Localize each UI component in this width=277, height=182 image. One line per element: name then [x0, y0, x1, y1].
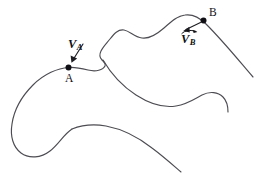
vector-b-subscript: B — [190, 37, 196, 47]
point-b-label: B — [209, 7, 217, 19]
vector-a-letter: V — [68, 37, 76, 51]
figure-canvas — [0, 0, 277, 182]
vector-a-label: VA — [68, 38, 82, 52]
lower-boundary-curve — [72, 125, 181, 172]
kinematics-figure: A B VA VB — [0, 0, 277, 182]
descending-branch-curve — [103, 60, 228, 112]
vector-a-arrowhead — [71, 56, 78, 63]
point-a-marker — [66, 65, 72, 71]
point-a-label: A — [65, 73, 73, 85]
vector-a-subscript: A — [77, 42, 83, 52]
vector-b-letter: V — [181, 32, 189, 46]
vector-b-label: VB — [181, 33, 195, 47]
point-b-marker — [201, 18, 207, 24]
